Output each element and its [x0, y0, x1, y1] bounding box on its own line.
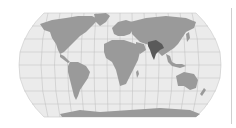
world-map [0, 0, 236, 128]
divider [231, 8, 232, 124]
